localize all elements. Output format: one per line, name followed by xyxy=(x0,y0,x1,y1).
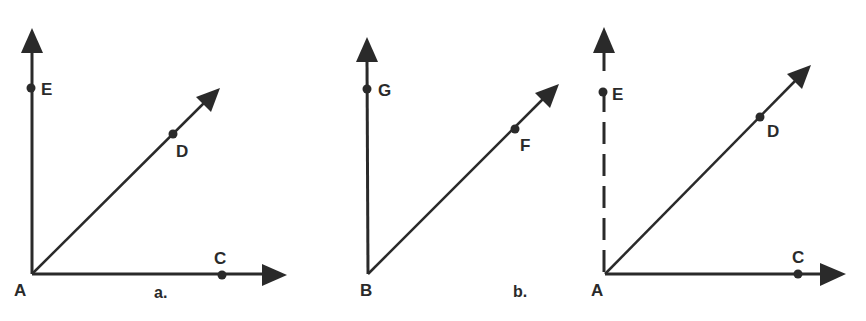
label-vertex-a: A xyxy=(14,282,26,299)
point-E xyxy=(599,88,608,97)
arrowhead-up-icon xyxy=(593,27,615,53)
arrowhead-right-icon xyxy=(262,264,287,286)
label-G-b: G xyxy=(378,82,391,99)
figure-c xyxy=(593,27,846,286)
arrowhead-right-icon xyxy=(820,263,846,286)
point-D xyxy=(756,113,765,122)
caption-a: a. xyxy=(154,285,167,301)
point-C xyxy=(794,270,803,279)
point-E xyxy=(27,84,36,93)
label-C-c: C xyxy=(792,249,804,266)
ray-AD xyxy=(32,102,205,274)
label-vertex-b: B xyxy=(360,282,372,299)
point-G xyxy=(363,85,372,94)
label-E-c: E xyxy=(612,86,623,103)
label-D-a: D xyxy=(176,143,188,160)
label-vertex-c: A xyxy=(591,282,603,299)
figure-b xyxy=(356,37,559,274)
figure-a xyxy=(21,28,287,286)
label-C-a: C xyxy=(214,250,226,267)
angle-diagrams xyxy=(0,0,866,321)
point-D xyxy=(169,130,178,139)
label-F-b: F xyxy=(520,137,530,154)
ray-AD xyxy=(605,80,796,274)
point-C xyxy=(218,271,227,280)
label-D-c: D xyxy=(767,123,779,140)
label-E-a: E xyxy=(41,81,52,98)
arrowhead-up-icon xyxy=(21,28,43,53)
ray-BF xyxy=(368,98,544,274)
point-F xyxy=(511,125,520,134)
caption-b: b. xyxy=(513,284,527,300)
arrowhead-up-icon xyxy=(356,37,378,62)
